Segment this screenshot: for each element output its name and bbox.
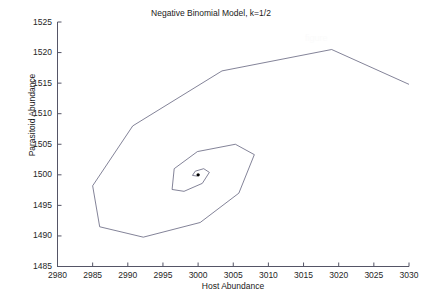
trajectory-line xyxy=(93,50,409,238)
fixed-point-dot xyxy=(197,173,200,176)
y-tick-label: 1495 xyxy=(10,200,52,210)
y-tick-label: 1490 xyxy=(10,230,52,240)
x-axis-title: Host Abundance xyxy=(57,281,409,291)
equilibrium-marker xyxy=(197,173,200,176)
y-axis-ticks xyxy=(58,22,62,267)
x-axis-ticks xyxy=(58,263,410,267)
figure-canvas: Negative Binomial Model, k=1/2 figure 14… xyxy=(0,0,422,300)
series-polyline xyxy=(93,50,409,238)
y-axis-title: Parasitoid Abundance xyxy=(27,35,37,195)
y-tick-label: 1525 xyxy=(10,17,52,27)
plot-area xyxy=(0,0,422,300)
x-tick-label: 3030 xyxy=(387,270,422,280)
